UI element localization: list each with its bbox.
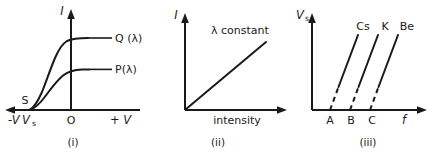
panel-i-curve-label-p: P(λ) [115,63,137,76]
panel-iii-x-axis-arrowhead [417,106,427,114]
panel-ii: I λ constant intensity (ii) [174,8,287,148]
panel-iii-caption: (iii) [360,136,377,148]
panel-i-x-axis-right-label: + V [110,113,132,127]
panel-iii-y-axis-symbol: V [296,8,305,22]
panel-iii-line-label-cs: Cs [356,20,370,33]
panel-ii-x-axis-arrowhead [277,106,287,114]
panel-i-origin-label: O [67,114,76,127]
panel-i-stopping-voltage-symbol: V [22,113,31,127]
panel-iii-line-be-solid [379,35,399,87]
panel-i-y-axis-label: I [60,4,64,18]
panel-iii-line-be-dashed [370,87,379,110]
panel-i-curve-p [30,69,90,110]
panel-ii-x-axis-label: intensity [213,114,261,127]
panel-iii-threshold-label-b: B [347,114,355,127]
panel-i-stopping-voltage-label: V s [22,113,36,128]
panel-iii-x-axis-label: f [402,113,408,127]
panel-ii-annotation: λ constant [211,24,270,37]
panel-iii-threshold-label-c: C [368,114,376,127]
panel-i-stopping-voltage-subscript: s [32,119,36,128]
panel-iii: V s Cs K Be A B C f (iii) [296,8,427,148]
panel-i-x-axis-left-label: -V [8,113,21,127]
panel-iii-y-axis-label: V s [296,8,309,23]
panel-ii-proportional-line [186,42,267,110]
panel-ii-caption: (ii) [211,136,225,148]
panel-iii-line-label-k: K [381,20,389,33]
panel-iii-line-cs-solid [339,35,359,87]
panel-i-curve-q [30,38,89,110]
photoelectric-effect-figure: I Q (λ) P(λ) S -V V s O + V (i) I λ cons… [0,0,435,152]
panel-iii-line-k-solid [359,35,379,87]
panel-iii-y-axis-arrowhead [308,13,316,23]
panel-i-curve-label-q: Q (λ) [115,32,142,45]
panel-iii-line-k-dashed [350,87,359,110]
figure-canvas: I Q (λ) P(λ) S -V V s O + V (i) I λ cons… [0,0,435,152]
panel-i-stopping-point-label: S [22,94,29,107]
panel-iii-line-cs-dashed [330,87,339,110]
panel-iii-threshold-label-a: A [326,114,334,127]
panel-i-y-axis-arrowhead [67,9,75,19]
panel-ii-y-axis-arrowhead [181,13,189,23]
panel-i: I Q (λ) P(λ) S -V V s O + V (i) [5,4,142,148]
panel-i-caption: (i) [67,136,78,148]
panel-ii-y-axis-label: I [174,8,178,22]
panel-iii-y-axis-subscript: s [305,14,309,23]
panel-iii-line-label-be: Be [400,20,415,33]
